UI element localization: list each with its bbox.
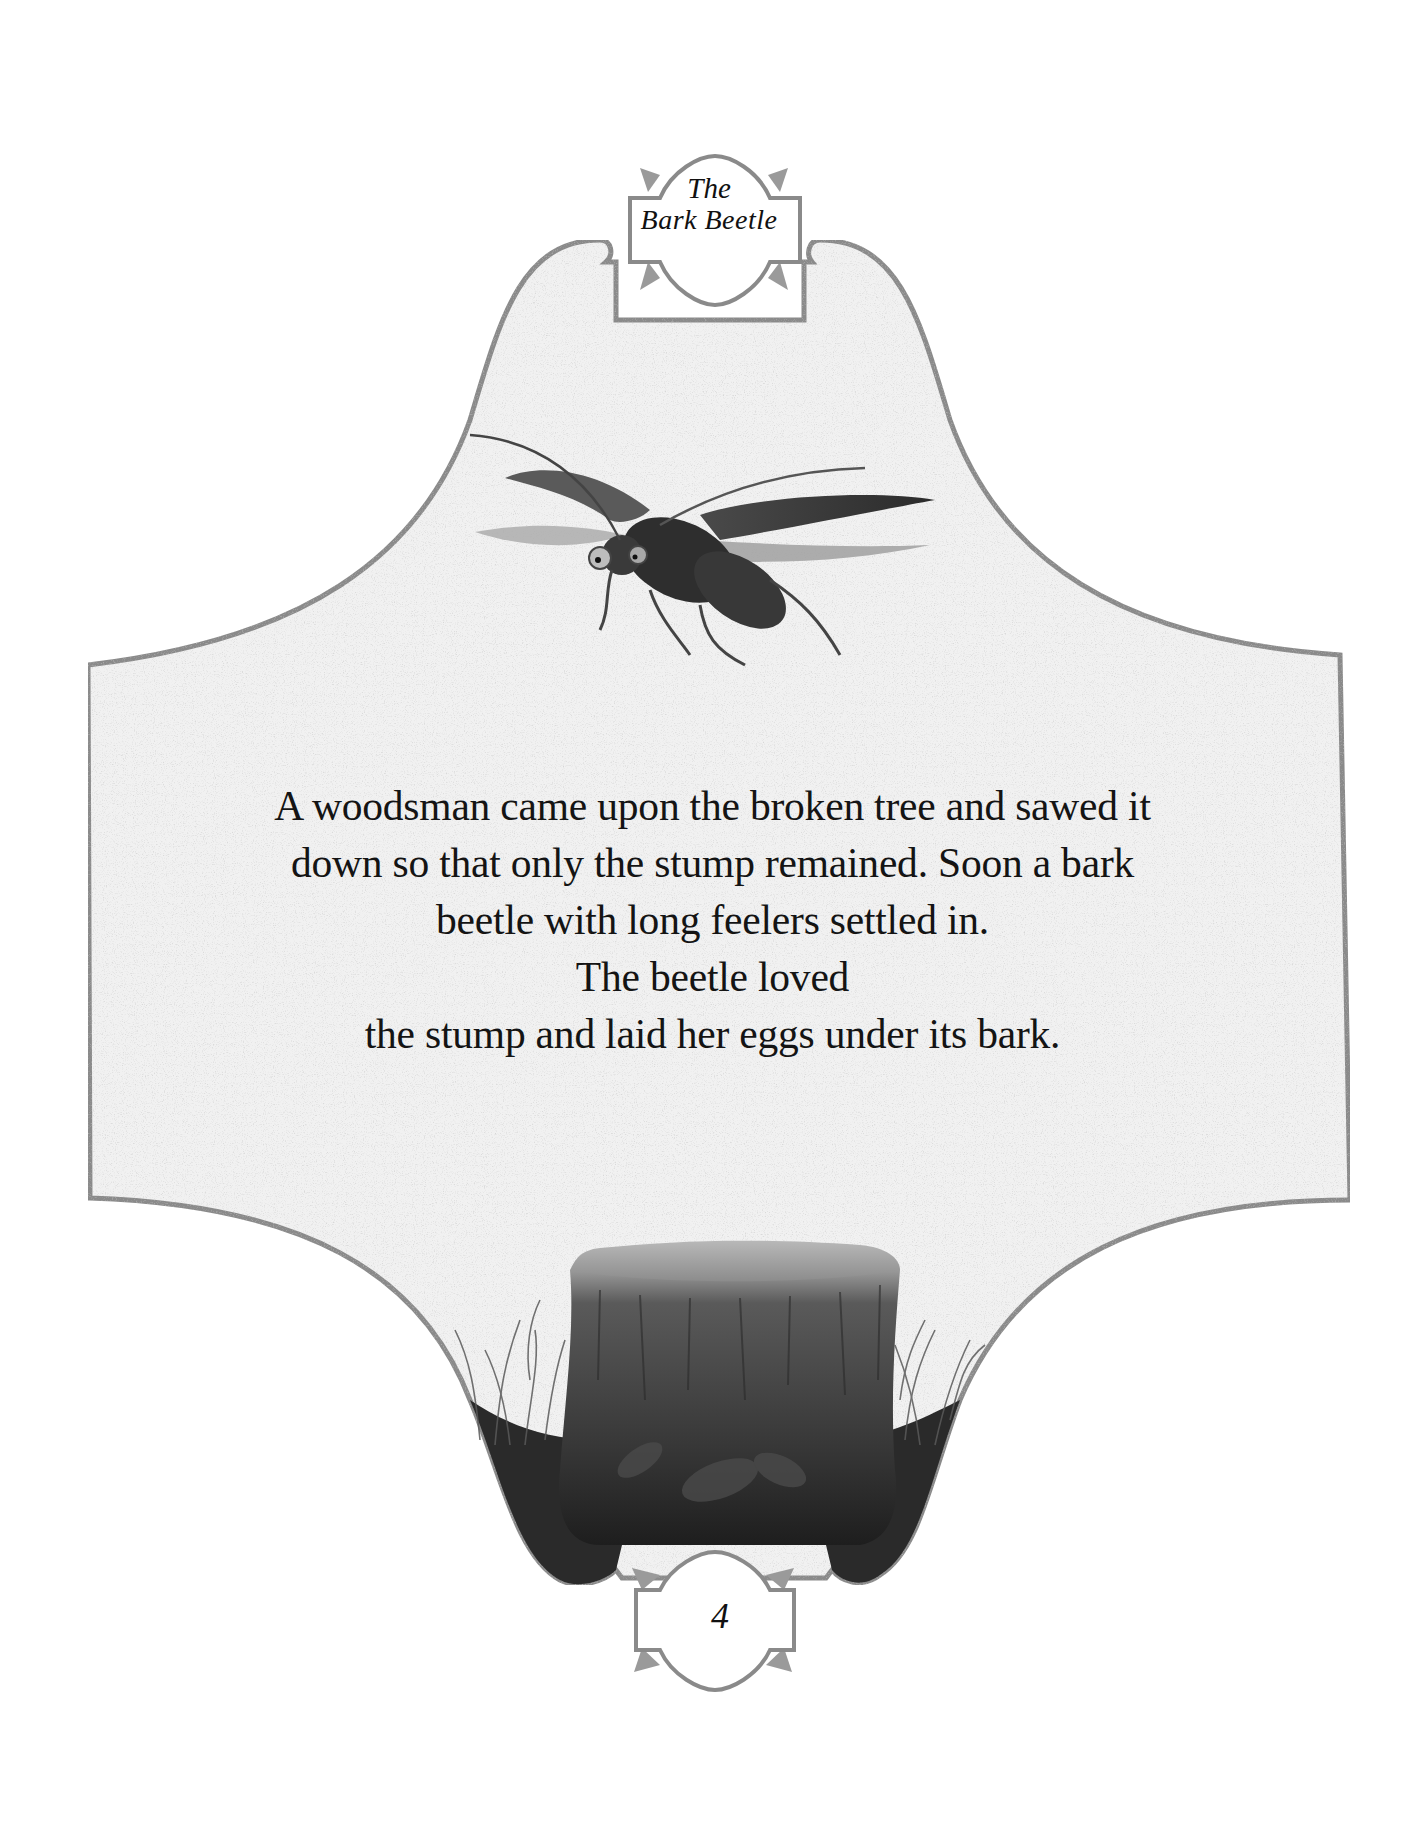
storybook-page: The Bark Beetle A woodsman came upon the… bbox=[0, 0, 1425, 1823]
page-title: The Bark Beetle bbox=[614, 168, 804, 288]
story-line-5: the stump and laid her eggs under its ba… bbox=[150, 1006, 1275, 1063]
story-line-2: down so that only the stump remained. So… bbox=[150, 835, 1275, 892]
story-line-3: beetle with long feelers settled in. bbox=[150, 892, 1275, 949]
title-line-2: Bark Beetle bbox=[614, 204, 804, 236]
page-number: 4 bbox=[680, 1595, 760, 1637]
story-line-4: The beetle loved bbox=[150, 949, 1275, 1006]
story-line-1: A woodsman came upon the broken tree and… bbox=[150, 778, 1275, 835]
title-line-1: The bbox=[614, 172, 804, 204]
story-text: A woodsman came upon the broken tree and… bbox=[150, 778, 1275, 1063]
